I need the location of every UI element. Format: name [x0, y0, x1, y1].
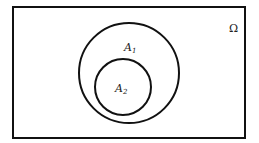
universe-rect	[13, 7, 245, 138]
set-a1-subscript: 1	[132, 47, 136, 55]
set-a2-circle	[95, 59, 151, 115]
set-a2-label: A2	[114, 82, 128, 96]
set-a1-circle	[79, 23, 179, 123]
set-a1-label: A1	[123, 41, 136, 55]
set-a2-subscript: 2	[122, 88, 128, 96]
set-a2-name: A	[114, 82, 123, 95]
venn-diagram: Ω A1 A2	[0, 0, 259, 143]
set-a1-name: A	[123, 41, 132, 54]
universe-label: Ω	[229, 22, 238, 35]
